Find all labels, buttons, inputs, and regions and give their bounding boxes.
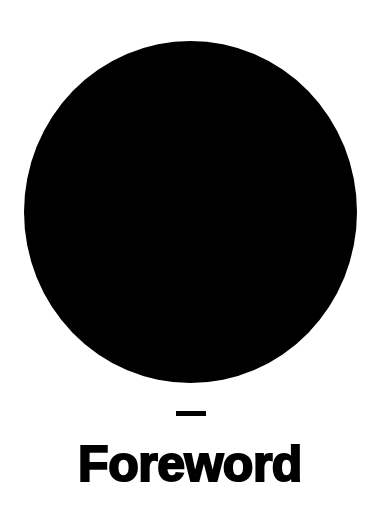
section-opener-page: Foreword [0,0,380,509]
page-title-block: Foreword [0,440,380,488]
horizontal-rule-divider [176,411,206,416]
page-title: Foreword [78,440,302,488]
filled-circle-icon [24,41,357,383]
